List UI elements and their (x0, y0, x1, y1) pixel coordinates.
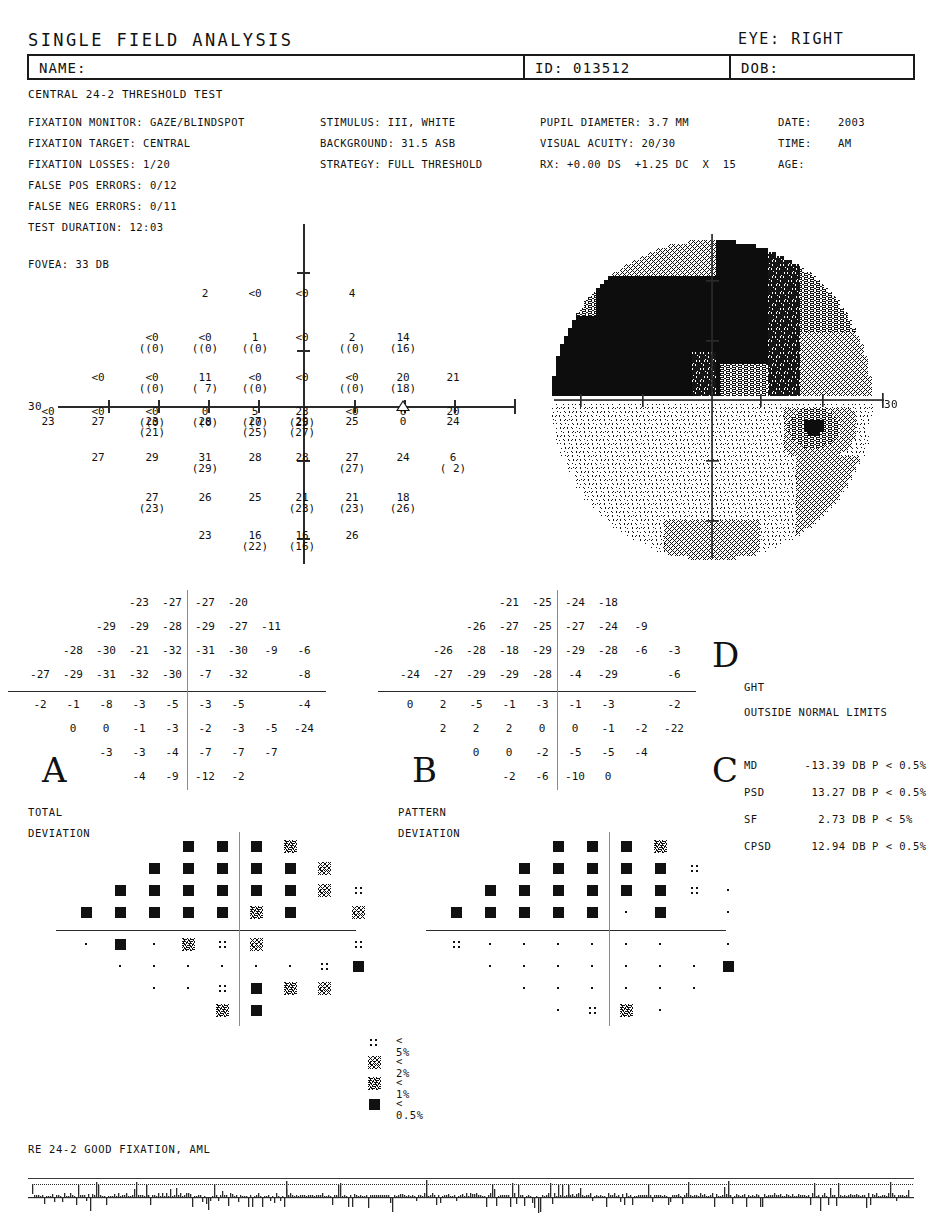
total-deviation-value: -27 (162, 596, 182, 609)
total-deviation-value: -12 (195, 770, 215, 783)
total-deviation-value: -1 (66, 698, 79, 711)
pattern-deviation-value: -10 (565, 770, 585, 783)
total-deviation-symbol-p05 (182, 840, 195, 853)
total-deviation-symbol-p05 (216, 906, 229, 919)
total-deviation-value: 0 (103, 722, 110, 735)
param-fixation-target: FIXATION TARGET: CENTRAL (28, 137, 191, 149)
pattern-deviation-value: -21 (499, 596, 519, 609)
total-deviation-symbol-dot (118, 964, 123, 969)
param-time-value: AM (838, 137, 852, 149)
pattern-deviation-value: -2 (502, 770, 515, 783)
pattern-deviation-symbol-dot (488, 942, 493, 947)
pattern-deviation-value: -6 (667, 668, 680, 681)
pattern-deviation-symbol-p05 (654, 884, 667, 897)
total-deviation-symbol-p2 (318, 982, 331, 995)
threshold-point: 1((0) (242, 332, 269, 354)
patient-id-box: NAME: ID: 013512 DOB: (27, 54, 915, 80)
total-deviation-horizontal-axis (8, 691, 326, 692)
name-field-label[interactable]: NAME: (39, 60, 87, 76)
param-fixation-losses: FIXATION LOSSES: 1/20 (28, 158, 170, 170)
threshold-axis-tick (108, 400, 110, 413)
total-deviation-symbol-dot (84, 942, 89, 947)
pattern-deviation-value: -28 (532, 668, 552, 681)
total-deviation-value: -5 (264, 722, 277, 735)
pattern-deviation-value: -29 (565, 644, 585, 657)
total-deviation-value: -20 (228, 596, 248, 609)
pattern-deviation-value: -4 (634, 746, 647, 759)
pattern-deviation-value: -2 (667, 698, 680, 711)
pattern-deviation-value: -26 (466, 620, 486, 633)
pattern-deviation-value: -3 (601, 698, 614, 711)
legend-label: < 0.5% (396, 1097, 424, 1121)
panel-letter-d: D (712, 635, 739, 675)
total-deviation-symbol-dot (152, 986, 157, 991)
param-stimulus: STIMULUS: III, WHITE (320, 116, 455, 128)
threshold-axis-tick (297, 272, 310, 274)
total-deviation-symbol-p05 (284, 862, 297, 875)
total-deviation-value: -3 (198, 698, 211, 711)
pattern-deviation-symbol-p05 (450, 906, 463, 919)
total-deviation-symbol-p5 (319, 961, 330, 972)
threshold-point: 6( 2) (440, 452, 467, 474)
total-deviation-value: -32 (129, 668, 149, 681)
total-deviation-symbol-p05 (216, 884, 229, 897)
total-deviation-value: -32 (228, 668, 248, 681)
total-deviation-symbol-p05 (182, 906, 195, 919)
gaze-tracking-strip (28, 1180, 914, 1216)
total-deviation-value: -4 (297, 698, 310, 711)
total-deviation-value: -9 (264, 644, 277, 657)
pattern-deviation-value: -24 (565, 596, 585, 609)
pattern-deviation-symbol-p05 (586, 906, 599, 919)
total-deviation-value: -5 (231, 698, 244, 711)
total-deviation-symbol-p5 (217, 983, 228, 994)
total-deviation-value: -24 (294, 722, 314, 735)
pattern-deviation-symbol-p05 (484, 906, 497, 919)
threshold-point: 26 (198, 492, 211, 503)
total-deviation-symbol-p1 (250, 906, 263, 919)
threshold-point: 21(23) (289, 492, 316, 514)
pattern-deviation-value: 0 (605, 770, 612, 783)
total-deviation-value: -7 (198, 746, 211, 759)
threshold-numeric-plot: 302<0<04<0((0)<0((0)1((0)<02((0)14(16)<0… (0, 220, 540, 560)
total-deviation-symbol-p05 (148, 884, 161, 897)
global-index-probability: P < 0.5% (872, 786, 927, 798)
pattern-deviation-symbol-dot (726, 910, 731, 915)
pattern-deviation-horizontal-axis (378, 691, 696, 692)
total-deviation-symbol-p05 (148, 862, 161, 875)
total-deviation-caption-1: TOTAL (28, 806, 63, 818)
threshold-point: <0 (295, 372, 308, 383)
panel-letter-b: B (412, 750, 437, 790)
total-deviation-symbol-p05 (250, 862, 263, 875)
dob-field-label[interactable]: DOB: (741, 60, 779, 76)
patient-id-value[interactable]: ID: 013512 (535, 60, 630, 76)
ght-label: GHT (744, 681, 764, 693)
pattern-deviation-value: -1 (568, 698, 581, 711)
threshold-point: 2((0) (339, 332, 366, 354)
threshold-point: 25 (345, 416, 358, 427)
total-deviation-symbol-p05 (250, 840, 263, 853)
threshold-point: <0((0) (339, 372, 366, 394)
threshold-axis-tick (297, 350, 310, 352)
pattern-deviation-value: -28 (598, 644, 618, 657)
pattern-deviation-symbol-dot (726, 942, 731, 947)
pattern-deviation-value: -3 (667, 644, 680, 657)
pattern-deviation-symbol-dot (556, 964, 561, 969)
total-deviation-vertical-axis (239, 832, 240, 1026)
threshold-point: 2 (202, 288, 209, 299)
page-title: SINGLE FIELD ANALYSIS (28, 30, 293, 50)
total-deviation-value: -3 (231, 722, 244, 735)
pattern-deviation-symbol-dot (556, 986, 561, 991)
param-false-neg-errors: FALSE NEG ERRORS: 0/11 (28, 200, 177, 212)
total-deviation-value: -3 (99, 746, 112, 759)
total-deviation-value: -3 (132, 698, 145, 711)
threshold-point: 27(25) (242, 416, 269, 438)
total-deviation-value: -31 (195, 644, 215, 657)
total-deviation-vertical-axis (187, 590, 188, 790)
pattern-deviation-value: 2 (440, 698, 447, 711)
pattern-deviation-caption-1: PATTERN (398, 806, 446, 818)
global-index-probability: P < 0.5% (872, 840, 927, 852)
pattern-deviation-symbol-p05 (654, 906, 667, 919)
threshold-point: <0 (248, 288, 261, 299)
pattern-deviation-value: -28 (466, 644, 486, 657)
global-index-value: -13.39 DB (790, 759, 866, 771)
